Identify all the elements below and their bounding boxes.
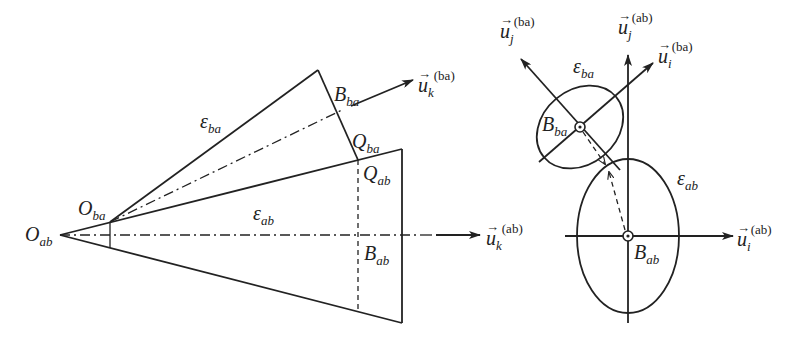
cone-ab [60,149,402,323]
point-B-ab-dot [626,234,629,237]
label-uj-ba: → uj(ba) [500,12,535,46]
point-B-ba-dot [578,125,581,128]
dashed-arrow-from-B-ab [609,172,625,230]
label-eps-ba-left: εba [200,110,221,136]
label-eps-ba-right: εba [573,55,594,81]
right-panel: → uj(ba) → uj(ab) → ui(ba) → ui(ab) εba … [500,8,772,323]
label-O-ab: Oab [25,223,53,249]
label-Q-ab: Qab [363,162,391,188]
left-panel: Oab Oba εba εab Bba Qba Qab Bab → uk(ba)… [25,66,523,323]
cone-ba [110,70,358,222]
label-uk-ba: → uk(ba) [418,66,455,100]
diagram-canvas: Oab Oba εba εab Bba Qba Qab Bab → uk(ba)… [0,0,798,341]
label-B-ab-left: Bab [364,242,390,268]
label-ui-ab: → ui(ab) [737,220,772,254]
label-O-ba: Oba [78,197,106,223]
label-B-ba-right: Bba [542,113,568,139]
cone-ab-lower-edge [60,235,402,323]
label-Q-ba: Qba [352,130,380,156]
dashed-arrow-from-B-ba [583,132,605,164]
axis-ui-ba [539,63,653,162]
label-uk-ab: → uk(ab) [486,219,523,253]
axis-ba-dashdot [110,110,342,222]
label-uj-ab: → uj(ab) [618,8,653,42]
arrow-uk-ba [351,80,413,106]
label-B-ba-left: Bba [334,83,360,109]
label-eps-ab-left: εab [253,202,274,228]
label-eps-ab-right: εab [677,167,698,193]
label-B-ab-right: Bab [634,241,660,267]
cone-ba-upper-edge [110,70,318,222]
axis-uj-ba [521,59,620,170]
label-ui-ba: → ui(ba) [658,37,693,71]
